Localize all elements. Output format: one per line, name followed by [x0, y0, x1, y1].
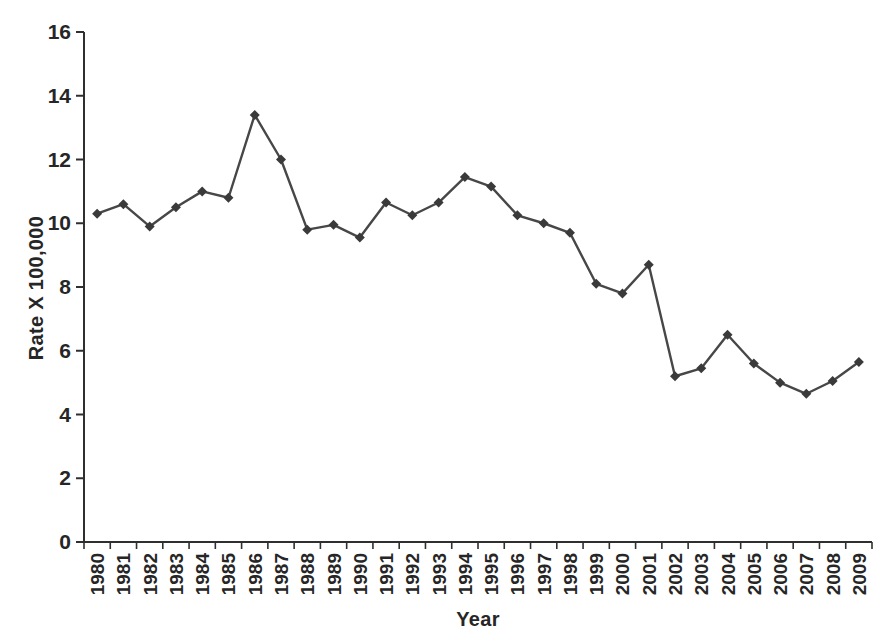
x-tick-label: 1984 — [192, 553, 213, 596]
x-tick-label: 1986 — [245, 553, 266, 595]
data-point-marker-1987 — [276, 155, 286, 165]
x-tick-label: 1982 — [140, 553, 161, 595]
x-tick-label: 1981 — [113, 553, 134, 596]
data-point-marker-1992 — [407, 210, 417, 220]
x-tick-label: 1997 — [534, 553, 555, 595]
x-tick-label: 2008 — [823, 553, 844, 595]
x-tick-label: 1987 — [271, 553, 292, 595]
y-tick-label: 16 — [48, 20, 71, 43]
series-line — [97, 115, 859, 394]
y-tick-label: 12 — [48, 148, 71, 171]
x-tick-label: 1990 — [350, 553, 371, 595]
data-point-marker-1989 — [329, 220, 339, 230]
x-tick-label: 2000 — [612, 553, 633, 595]
x-tick-label: 2005 — [744, 553, 765, 596]
x-tick-label: 2009 — [849, 553, 870, 595]
data-point-marker-1985 — [223, 193, 233, 203]
line-chart-figure: 0246810121416198019811982198319841985198… — [0, 0, 893, 644]
x-tick-label: 1994 — [455, 553, 476, 596]
data-point-marker-1997 — [539, 218, 549, 228]
x-tick-label: 1999 — [586, 553, 607, 595]
x-tick-label: 1998 — [560, 553, 581, 595]
line-chart-canvas: 0246810121416198019811982198319841985198… — [0, 0, 893, 644]
data-point-marker-1998 — [565, 228, 575, 238]
data-point-marker-1980 — [92, 209, 102, 219]
x-tick-label: 1995 — [481, 553, 502, 596]
x-tick-label: 1988 — [297, 553, 318, 595]
x-tick-label: 1992 — [402, 553, 423, 595]
y-axis-title: Rate X 100,000 — [23, 188, 49, 388]
x-tick-label: 2007 — [796, 553, 817, 595]
x-tick-label: 1991 — [376, 553, 397, 596]
x-tick-label: 2004 — [718, 553, 739, 596]
y-tick-label: 6 — [59, 339, 71, 362]
x-tick-label: 1993 — [429, 553, 450, 595]
y-tick-label: 0 — [59, 530, 71, 553]
y-tick-label: 4 — [59, 403, 71, 426]
x-tick-label: 2006 — [770, 553, 791, 595]
x-tick-label: 2003 — [691, 553, 712, 595]
x-tick-label: 1980 — [87, 553, 108, 595]
data-point-marker-2007 — [801, 389, 811, 399]
x-tick-label: 1989 — [324, 553, 345, 595]
data-point-marker-1988 — [302, 225, 312, 235]
x-tick-label: 1996 — [507, 553, 528, 595]
y-tick-label: 14 — [48, 84, 72, 107]
x-tick-label: 1983 — [166, 553, 187, 595]
y-tick-label: 8 — [59, 275, 71, 298]
x-tick-label: 2002 — [665, 553, 686, 595]
data-point-marker-2002 — [670, 371, 680, 381]
x-tick-label: 1985 — [218, 553, 239, 596]
y-tick-label: 2 — [59, 466, 71, 489]
x-tick-label: 2001 — [639, 553, 660, 596]
data-point-marker-1986 — [250, 110, 260, 120]
x-axis-title: Year — [378, 608, 578, 631]
y-tick-label: 10 — [48, 211, 71, 234]
data-point-marker-1999 — [591, 279, 601, 289]
